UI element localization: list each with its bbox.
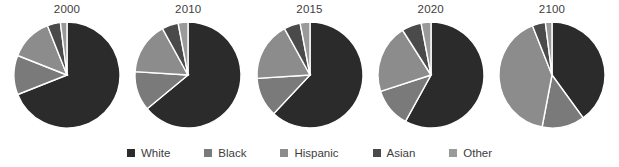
pie-chart-2100 <box>496 19 608 131</box>
pie-svg <box>375 19 487 131</box>
pie-panel-title: 2010 <box>175 2 201 18</box>
legend-label: White <box>141 147 170 160</box>
legend-label: Asian <box>387 147 416 160</box>
pie-svg <box>496 19 608 131</box>
pie-panel-2000: 2000 <box>8 0 126 131</box>
pie-panel-row: 2000 2010 2015 2020 2100 <box>0 0 619 140</box>
legend-item-white: White <box>127 147 170 160</box>
legend-item-asian: Asian <box>373 147 416 160</box>
pie-svg <box>132 19 244 131</box>
legend-label: Other <box>463 147 492 160</box>
pie-svg <box>11 19 123 131</box>
pie-panel-2020: 2020 <box>372 0 490 131</box>
pie-panel-title: 2015 <box>296 2 322 18</box>
legend-swatch-white <box>127 149 135 157</box>
legend-swatch-other <box>449 149 457 157</box>
legend-swatch-black <box>204 149 212 157</box>
legend-item-hispanic: Hispanic <box>280 147 338 160</box>
pie-chart-2000 <box>11 19 123 131</box>
pie-chart-2010 <box>132 19 244 131</box>
pie-panel-title: 2100 <box>539 2 565 18</box>
chart-legend: White Black Hispanic Asian Other <box>0 141 619 165</box>
pie-panel-title: 2000 <box>54 2 80 18</box>
pie-chart-2015 <box>254 19 366 131</box>
pie-panel-2010: 2010 <box>129 0 247 131</box>
legend-label: Black <box>218 147 246 160</box>
pie-chart-2020 <box>375 19 487 131</box>
pie-panel-2015: 2015 <box>251 0 369 131</box>
legend-swatch-asian <box>373 149 381 157</box>
pie-svg <box>254 19 366 131</box>
pie-panel-title: 2020 <box>418 2 444 18</box>
legend-item-black: Black <box>204 147 246 160</box>
legend-swatch-hispanic <box>280 149 288 157</box>
legend-item-other: Other <box>449 147 492 160</box>
pie-panel-2100: 2100 <box>493 0 611 131</box>
legend-label: Hispanic <box>294 147 338 160</box>
pie-chart-figure: 2000 2010 2015 2020 2100 White Black <box>0 0 619 167</box>
